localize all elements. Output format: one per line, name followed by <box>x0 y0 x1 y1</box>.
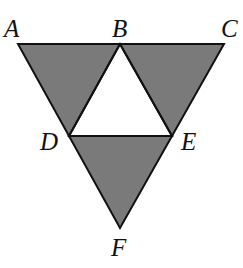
shaded-triangle-abd <box>18 44 120 136</box>
shaded-triangle-bce <box>120 44 224 136</box>
shaded-triangle-def <box>69 136 172 228</box>
vertex-label-c: C <box>221 15 238 42</box>
vertex-label-e: E <box>180 128 196 155</box>
vertex-label-b: B <box>112 15 127 42</box>
vertex-label-a: A <box>2 15 20 42</box>
vertex-label-f: F <box>110 234 127 261</box>
vertex-label-d: D <box>39 128 58 155</box>
triangle-diagram: ABCDEF <box>0 0 243 268</box>
